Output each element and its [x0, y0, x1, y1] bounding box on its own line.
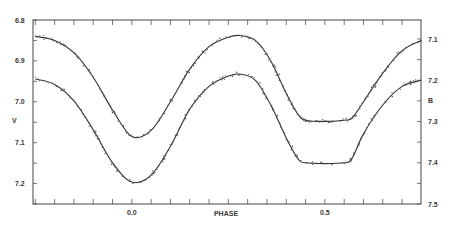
observation-point [328, 122, 329, 123]
observation-point [284, 90, 285, 91]
observation-point [94, 79, 95, 80]
observation-point [123, 125, 125, 127]
observation-point [285, 139, 286, 140]
observation-point [180, 82, 181, 83]
observation-point [137, 136, 138, 137]
observation-point [232, 76, 233, 77]
observation-point [52, 40, 53, 41]
right-y-tick-label: 7.1 [428, 36, 438, 43]
observation-point [223, 76, 224, 77]
observation-point [76, 55, 78, 57]
observation-point [288, 143, 289, 144]
observation-point [268, 59, 269, 60]
observation-point [157, 169, 158, 170]
observation-point [92, 76, 93, 77]
observation-point [230, 75, 231, 76]
observation-point [405, 47, 406, 48]
observation-point [292, 145, 293, 146]
observation-point [43, 39, 44, 40]
observation-point [293, 108, 294, 109]
y-tick-label: 7.2 [15, 180, 25, 187]
observation-point [218, 41, 219, 42]
observation-point [413, 80, 414, 81]
observation-point [113, 165, 114, 166]
observation-point [204, 89, 205, 90]
observation-point [404, 50, 405, 51]
observation-point [353, 152, 354, 153]
observation-point [250, 38, 251, 39]
observation-point [217, 80, 218, 81]
observation-point [316, 120, 317, 121]
observation-point [174, 94, 175, 95]
observation-point [77, 57, 78, 58]
observation-point [197, 56, 198, 57]
observation-point [63, 44, 64, 45]
observation-point [169, 100, 170, 101]
observation-point [198, 58, 199, 59]
observation-point [39, 35, 40, 36]
observation-point [229, 37, 230, 38]
right-y-tick-label: 7.3 [428, 118, 438, 125]
observation-point [283, 86, 284, 87]
observation-point [280, 81, 281, 82]
observation-point [188, 109, 189, 110]
observation-point [331, 164, 333, 166]
observation-point [203, 91, 204, 92]
observation-point [224, 79, 225, 80]
observation-point [212, 82, 214, 84]
observation-point [271, 105, 272, 106]
observation-point [65, 45, 66, 46]
observation-point [84, 117, 85, 118]
observation-point [264, 94, 265, 95]
observation-point [296, 154, 297, 155]
observation-point [288, 141, 289, 142]
right-y-tick-label: 7.4 [428, 159, 438, 166]
observation-point [39, 80, 40, 81]
observation-point [171, 144, 172, 145]
observation-point [45, 37, 47, 39]
observation-point [302, 117, 303, 118]
observation-point [262, 93, 264, 95]
observation-point [201, 93, 202, 94]
right-y-axis-label: B [428, 97, 433, 104]
x-axis-label: PHASE [214, 210, 238, 217]
observation-point [272, 109, 273, 110]
observation-point [158, 166, 159, 167]
observation-point [403, 82, 404, 83]
observation-point [184, 75, 185, 76]
observation-point [292, 103, 293, 104]
observation-point [350, 118, 352, 120]
observation-point [270, 62, 271, 63]
observation-point [169, 144, 170, 145]
observation-point [381, 74, 382, 75]
observation-point [417, 42, 418, 43]
observation-point [182, 81, 183, 82]
observation-point [364, 133, 366, 135]
observation-point [182, 79, 183, 80]
observation-point [415, 82, 416, 83]
observation-point [312, 161, 313, 162]
observation-point [361, 102, 362, 103]
observation-point [193, 65, 195, 67]
observation-point [175, 135, 176, 136]
observation-point [112, 110, 113, 111]
observation-point [242, 74, 243, 75]
observation-point [380, 107, 381, 108]
observation-point [216, 40, 217, 41]
observation-point [275, 66, 277, 68]
observation-point [367, 95, 368, 96]
observation-point [276, 118, 277, 119]
observation-point [69, 98, 70, 99]
observation-point [259, 82, 260, 83]
observation-point [374, 117, 375, 118]
observation-point [376, 82, 377, 83]
observation-point [101, 92, 102, 93]
observation-point [56, 42, 57, 43]
observation-point [413, 82, 414, 83]
observation-point [94, 132, 96, 134]
observation-point [73, 98, 74, 99]
observation-point [143, 136, 144, 137]
observation-point [255, 41, 256, 42]
observation-point [261, 47, 262, 48]
observation-point [95, 131, 96, 132]
